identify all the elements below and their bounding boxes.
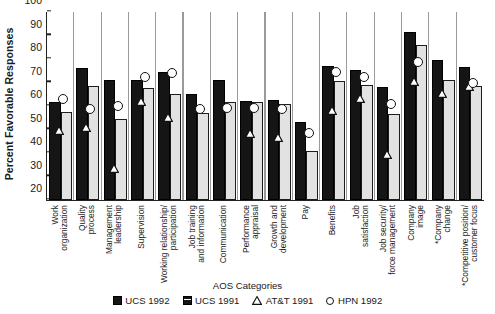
x-axis-tick-label: Working relationship/participation	[156, 203, 183, 281]
y-axis-tick-label: 80	[30, 41, 47, 53]
x-axis-tick-label: Job security/force management	[375, 203, 402, 281]
bar-group	[156, 12, 183, 200]
bar-ucs-1992	[213, 80, 225, 200]
legend-swatch-triangle-icon	[252, 296, 262, 305]
x-axis-tick-label: Benefits	[320, 203, 347, 281]
bar-ucs-1991	[470, 86, 482, 200]
marker-att-1991	[437, 89, 447, 98]
marker-hpn-1992	[85, 104, 95, 114]
x-axis-tick-label: Communication	[210, 203, 237, 281]
y-axis-tick-label: 100	[24, 0, 47, 6]
bar-group	[184, 12, 211, 200]
marker-hpn-1992	[113, 101, 123, 111]
marker-att-1991	[245, 129, 255, 138]
marker-hpn-1992	[331, 67, 341, 77]
legend-item: AT&T 1991	[252, 295, 313, 306]
y-axis-tick-label: 30	[30, 159, 47, 171]
legend-item: UCS 1991	[183, 295, 240, 306]
bar-group	[74, 12, 101, 200]
x-axis-tick-label: Pay	[292, 203, 319, 281]
bar-group-bars	[402, 12, 429, 200]
x-axis-title: AOS Categories	[0, 280, 495, 291]
chart-legend: UCS 1992UCS 1991AT&T 1991HPN 1992	[0, 295, 495, 306]
bar-ucs-1991	[306, 151, 318, 200]
bar-ucs-1992	[322, 66, 334, 200]
bar-group-bars	[347, 12, 374, 200]
marker-hpn-1992	[249, 103, 259, 113]
x-axis-tick-label: Qualityprocess	[73, 203, 100, 281]
chart-container: Percent Favorable Responses 203040506070…	[0, 0, 495, 314]
marker-hpn-1992	[167, 68, 177, 78]
x-axis-tick-label: Supervision	[128, 203, 155, 281]
bar-group	[320, 12, 347, 200]
marker-att-1991	[163, 113, 173, 122]
bar-group	[457, 12, 484, 200]
legend-item: UCS 1992	[113, 295, 170, 306]
legend-swatch-light-square-icon	[183, 296, 192, 305]
legend-swatch-circle-icon	[326, 297, 334, 305]
bar-ucs-1992	[268, 100, 280, 200]
bar-group	[47, 12, 74, 200]
x-axis-tick-label: Managementleadership	[101, 203, 128, 281]
bar-ucs-1991	[416, 45, 428, 200]
legend-item-label: UCS 1991	[195, 295, 239, 306]
marker-hpn-1992	[222, 103, 232, 113]
bar-ucs-1991	[115, 119, 127, 200]
x-axis-tick-label: *Competitive position/customer focus	[457, 203, 484, 281]
plot-area: 2030405060708090100	[46, 12, 484, 201]
bar-ucs-1991	[252, 102, 264, 200]
y-axis-tick-label: 60	[30, 88, 47, 100]
bar-ucs-1991	[197, 113, 209, 200]
bar-group	[266, 12, 293, 200]
bar-group	[211, 12, 238, 200]
bar-ucs-1992	[432, 60, 444, 200]
bar-group-bars	[429, 12, 456, 200]
bar-group	[129, 12, 156, 200]
bar-group	[347, 12, 374, 200]
bar-ucs-1991	[443, 80, 455, 200]
marker-hpn-1992	[468, 78, 478, 88]
y-axis-tick-label: 90	[30, 18, 47, 30]
x-axis-tick-label: Companyimage	[402, 203, 429, 281]
bar-group	[429, 12, 456, 200]
marker-hpn-1992	[386, 99, 396, 109]
bar-ucs-1992	[76, 68, 88, 200]
bar-group	[102, 12, 129, 200]
bar-ucs-1991	[170, 94, 182, 200]
bar-ucs-1992	[49, 102, 61, 200]
marker-att-1991	[409, 77, 419, 86]
marker-att-1991	[109, 164, 119, 173]
bar-group	[375, 12, 402, 200]
marker-att-1991	[136, 97, 146, 106]
bar-ucs-1992	[104, 80, 116, 200]
marker-att-1991	[382, 150, 392, 159]
bar-ucs-1992	[240, 101, 252, 200]
bar-ucs-1991	[279, 104, 291, 200]
x-axis-title-text: AOS Categories	[213, 280, 282, 291]
y-axis-title-text: Percent Favorable Responses	[3, 28, 15, 181]
marker-att-1991	[355, 94, 365, 103]
marker-hpn-1992	[359, 72, 369, 82]
x-axis-tick-label: Jobsatisfaction	[347, 203, 374, 281]
bar-group-bars	[293, 12, 320, 200]
legend-item-label: HPN 1992	[338, 295, 382, 306]
marker-att-1991	[327, 106, 337, 115]
y-axis-tick-label: 70	[30, 65, 47, 77]
marker-hpn-1992	[140, 72, 150, 82]
legend-swatch-dark-square-icon	[113, 296, 122, 305]
bar-ucs-1991	[61, 112, 73, 200]
marker-hpn-1992	[304, 128, 314, 138]
y-axis-tick-label: 20	[30, 182, 47, 194]
legend-item: HPN 1992	[326, 295, 382, 306]
bar-ucs-1991	[334, 81, 346, 200]
x-axis-tick-label: Performanceappraisal	[238, 203, 265, 281]
x-axis-tick-labels: WorkorganizationQualityprocessManagement…	[46, 203, 484, 281]
legend-item-label: UCS 1992	[125, 295, 169, 306]
bar-group-bars	[47, 12, 74, 200]
marker-att-1991	[54, 126, 64, 135]
y-axis-title: Percent Favorable Responses	[1, 14, 17, 194]
bar-group-bars	[457, 12, 484, 200]
legend-item-label: AT&T 1991	[266, 295, 314, 306]
x-axis-tick-label: Job trainingand information	[183, 203, 210, 281]
x-axis-tick-label: Growth anddevelopment	[265, 203, 292, 281]
